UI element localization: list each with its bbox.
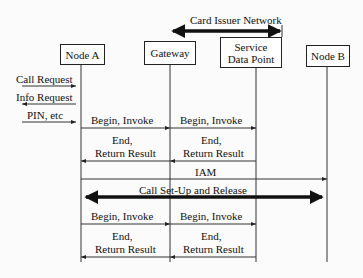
- node-b-label: Node B: [311, 50, 345, 62]
- return-result-label-1b: Return Result: [183, 147, 244, 159]
- begin-invoke-label-2a: Begin, Invoke: [91, 210, 153, 222]
- return-result-label-2b: Return Result: [183, 243, 244, 255]
- card-issuer-network-label: Card Issuer Network: [190, 14, 282, 26]
- begin-invoke-label-1a: Begin, Invoke: [91, 114, 153, 126]
- begin-invoke-label-2b: Begin, Invoke: [180, 210, 242, 222]
- node-b-box: Node B: [306, 45, 350, 67]
- sdp-label-line2: Data Point: [228, 53, 275, 65]
- iam-label: IAM: [195, 166, 216, 178]
- gateway-label: Gateway: [150, 47, 189, 59]
- info-request-label: Info Request: [16, 91, 73, 103]
- end-label-2a: End,: [112, 230, 132, 242]
- end-label-2b: End,: [201, 230, 221, 242]
- begin-invoke-label-1b: Begin, Invoke: [180, 114, 242, 126]
- node-a-box: Node A: [60, 44, 105, 65]
- return-result-label-2a: Return Result: [95, 243, 156, 255]
- call-setup-label: Call Set-Up and Release: [139, 184, 247, 196]
- call-request-label: Call Request: [16, 73, 73, 85]
- end-label-1a: End,: [112, 134, 132, 146]
- end-label-1b: End,: [201, 134, 221, 146]
- return-result-label-1a: Return Result: [95, 147, 156, 159]
- sdp-label-line1: Service: [235, 41, 268, 53]
- node-a-label: Node A: [66, 49, 100, 61]
- gateway-box: Gateway: [144, 41, 196, 65]
- pin-label: PIN, etc: [27, 109, 63, 121]
- sdp-box: Service Data Point: [220, 37, 282, 68]
